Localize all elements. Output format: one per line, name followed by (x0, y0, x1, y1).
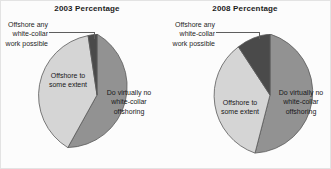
slice-label-line-2: some extent (210, 107, 270, 116)
callout-line-1: Offshore any (169, 20, 215, 29)
chart-title-2008: 2008 Percentage (170, 4, 320, 14)
callout-label-2003-any-possible: Offshore any white-collar work possible (2, 20, 48, 48)
callout-line-3: work possible (169, 39, 215, 48)
slice-label-line-1: Offshore to (39, 71, 97, 80)
chart-panel-2003: 2003 Percentage Offshore any white-colla… (1, 1, 167, 169)
callout-leader-tick-2008 (259, 32, 260, 39)
callout-line-1: Offshore any (2, 20, 48, 29)
callout-line-2: white-collar (169, 29, 215, 38)
slice-label-2003-some-extent: Offshore to some extent (39, 71, 97, 90)
chart-title-2003: 2003 Percentage (12, 4, 162, 14)
slice-label-line-1: Offshore to (210, 98, 270, 107)
offshoring-pie-figure: 2003 Percentage Offshore any white-colla… (0, 0, 331, 169)
slice-label-line-2: white-collar (270, 97, 331, 106)
slice-label-line-1: Do virtually no (270, 88, 331, 97)
slice-label-2008-some-extent: Offshore to some extent (210, 98, 270, 117)
callout-label-2008-any-possible: Offshore any white-collar work possible (169, 20, 215, 48)
slice-label-line-1: Do virtually no (98, 88, 160, 97)
slice-label-line-3: offshoring (270, 107, 331, 116)
slice-label-line-3: offshoring (98, 107, 160, 116)
slice-label-2003-no-offshoring: Do virtually no white-collar offshoring (98, 88, 160, 116)
slice-label-line-2: some extent (39, 80, 97, 89)
callout-line-2: white-collar (2, 29, 48, 38)
callout-leader-tick-2003 (94, 32, 95, 39)
callout-leader-line-2008 (216, 32, 259, 33)
callout-line-3: work possible (2, 39, 48, 48)
callout-leader-line-2003 (49, 32, 94, 33)
slice-label-2008-no-offshoring: Do virtually no white-collar offshoring (270, 88, 331, 116)
chart-panel-2008: 2008 Percentage Offshore any white-colla… (166, 1, 331, 169)
slice-label-line-2: white-collar (98, 97, 160, 106)
